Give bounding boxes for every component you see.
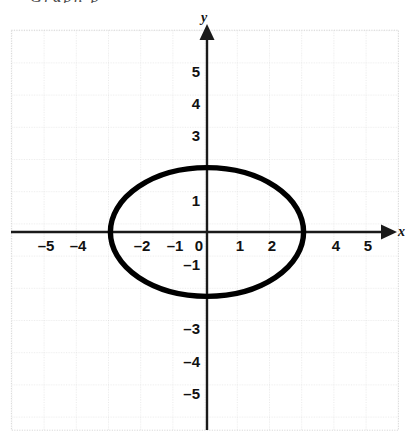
- coordinate-plot: –5 –4 –2 –1 0 1 2 4 5 5 4 3 1 –1 –3 –4 –…: [0, 0, 411, 436]
- y-tick-label-4: 4: [192, 96, 200, 111]
- y-tick-label-5: 5: [192, 64, 200, 79]
- y-tick-label-3: 3: [192, 128, 200, 143]
- x-tick-label-5: 5: [364, 238, 372, 253]
- x-tick-label--2: –2: [134, 238, 151, 253]
- x-tick-label-1: 1: [236, 238, 244, 253]
- x-tick-label-2: 2: [268, 238, 276, 253]
- origin-label: 0: [195, 238, 203, 253]
- y-tick-label-1: 1: [192, 193, 200, 208]
- y-tick-label--5: –5: [183, 386, 200, 401]
- x-tick-label-4: 4: [332, 238, 340, 253]
- x-tick-label--5: –5: [38, 238, 55, 253]
- ellipse-curve: [0, 0, 411, 436]
- y-axis-label: y: [201, 10, 207, 26]
- x-axis-label: x: [398, 224, 405, 240]
- y-tick-label--1: –1: [183, 257, 200, 272]
- x-tick-label--1: –1: [167, 238, 184, 253]
- x-tick-label--4: –4: [70, 238, 87, 253]
- y-tick-label--3: –3: [183, 321, 200, 336]
- y-tick-label--4: –4: [183, 354, 200, 369]
